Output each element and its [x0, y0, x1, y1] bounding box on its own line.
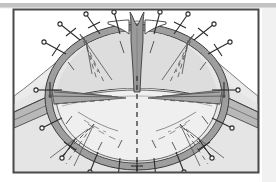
- figure-screen: Anatomical cross-section diagram Symmetr…: [0, 0, 276, 182]
- top-scan-band: [0, 3, 276, 7]
- anatomical-cross-section-figure: Anatomical cross-section diagram Symmetr…: [0, 0, 276, 182]
- right-margin-strip: [262, 8, 276, 182]
- top-scan-band-shadow: [0, 7, 276, 8]
